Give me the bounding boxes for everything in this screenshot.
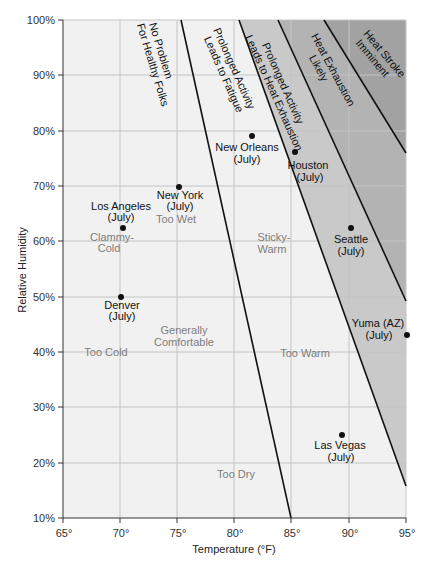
svg-text:Warm: Warm <box>258 243 287 255</box>
annotation-too-warm: Too Warm <box>280 347 330 359</box>
svg-text:100%: 100% <box>27 14 55 26</box>
point-los-angeles <box>120 225 126 231</box>
svg-text:60%: 60% <box>33 235 55 247</box>
svg-text:50%: 50% <box>33 291 55 303</box>
label-yuma: Yuma (AZ) <box>352 317 405 329</box>
svg-text:(July): (July) <box>109 310 136 322</box>
svg-text:(July): (July) <box>297 171 324 183</box>
point-new-orleans <box>249 133 255 139</box>
svg-text:95°: 95° <box>399 527 416 539</box>
svg-text:Comfortable: Comfortable <box>154 336 214 348</box>
annotation-too-cold: Too Cold <box>84 346 127 358</box>
svg-text:80°: 80° <box>227 527 244 539</box>
svg-text:70%: 70% <box>33 180 55 192</box>
svg-text:40%: 40% <box>33 346 55 358</box>
svg-text:85°: 85° <box>284 527 301 539</box>
svg-text:(July): (July) <box>108 211 135 223</box>
svg-text:80%: 80% <box>33 125 55 137</box>
svg-text:90%: 90% <box>33 69 55 81</box>
svg-text:75°: 75° <box>170 527 187 539</box>
x-axis-title: Temperature (°F) <box>192 543 275 555</box>
x-tick-labels: 65° 70° 75° 80° 85° 90° 95° <box>56 527 416 539</box>
label-seattle: Seattle <box>334 233 368 245</box>
svg-text:(July): (July) <box>234 153 261 165</box>
heat-index-chart: 100% 90% 80% 70% 60% 50% 40% 30% 20% 10%… <box>0 0 429 571</box>
svg-text:(July): (July) <box>366 329 393 341</box>
annotation-generally-comfortable: Generally <box>160 324 208 336</box>
svg-text:20%: 20% <box>33 457 55 469</box>
svg-text:Cold: Cold <box>98 242 121 254</box>
label-new-orleans: New Orleans <box>215 141 279 153</box>
svg-text:70°: 70° <box>113 527 130 539</box>
point-yuma <box>404 332 410 338</box>
point-las-vegas <box>339 432 345 438</box>
annotation-too-dry: Too Dry <box>217 468 255 480</box>
label-houston: Houston <box>288 159 329 171</box>
annotation-too-wet: Too Wet <box>156 213 196 225</box>
svg-text:10%: 10% <box>33 512 55 524</box>
svg-text:65°: 65° <box>56 527 73 539</box>
svg-text:30%: 30% <box>33 401 55 413</box>
point-houston <box>292 149 298 155</box>
y-axis-title: Relative Humidity <box>16 227 28 313</box>
point-seattle <box>348 225 354 231</box>
label-las-vegas: Las Vegas <box>314 439 366 451</box>
svg-text:(July): (July) <box>167 200 194 212</box>
svg-text:(July): (July) <box>338 245 365 257</box>
y-tick-labels: 100% 90% 80% 70% 60% 50% 40% 30% 20% 10% <box>27 14 55 524</box>
svg-text:(July): (July) <box>328 451 355 463</box>
svg-text:90°: 90° <box>342 527 359 539</box>
annotation-sticky-warm: Sticky- <box>258 231 291 243</box>
